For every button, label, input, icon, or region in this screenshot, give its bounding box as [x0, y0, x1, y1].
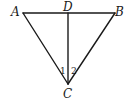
label-angle-1: 1 — [60, 66, 66, 76]
triangle-diagram: A D B C 1 2 — [0, 0, 131, 101]
label-point-d: D — [62, 0, 73, 14]
label-angle-2: 2 — [71, 66, 77, 76]
label-point-c: C — [63, 87, 72, 101]
label-point-a: A — [10, 5, 20, 19]
label-point-b: B — [114, 5, 124, 19]
